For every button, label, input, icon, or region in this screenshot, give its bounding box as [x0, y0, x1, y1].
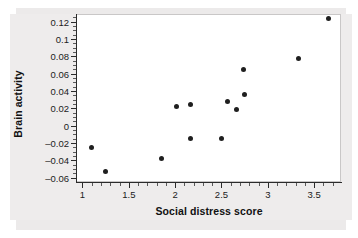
y-tick-mark	[71, 108, 76, 109]
x-minor-tick-mark	[184, 183, 185, 186]
y-tick-mark	[71, 178, 76, 179]
y-minor-tick-mark	[73, 78, 76, 79]
y-tick-label: 0.08	[51, 51, 70, 62]
y-minor-tick-mark	[73, 100, 76, 101]
x-tick-mark	[314, 183, 315, 188]
x-minor-tick-mark	[305, 183, 306, 186]
y-tick-mark	[71, 39, 76, 40]
y-tick-mark	[71, 74, 76, 75]
y-minor-tick-mark	[73, 17, 76, 18]
y-tick-mark	[71, 143, 76, 144]
x-tick-label: 3	[265, 189, 270, 200]
x-tick-label: 2	[172, 189, 177, 200]
x-tick-mark	[82, 183, 83, 188]
y-minor-tick-mark	[73, 82, 76, 83]
x-tick-mark	[129, 183, 130, 188]
y-minor-tick-mark	[73, 134, 76, 135]
x-minor-tick-mark	[203, 183, 204, 186]
x-tick-mark	[268, 183, 269, 188]
y-minor-tick-mark	[73, 87, 76, 88]
y-minor-tick-mark	[73, 35, 76, 36]
x-minor-tick-mark	[166, 183, 167, 186]
x-tick-label: 3.5	[308, 189, 321, 200]
y-tick-mark	[71, 126, 76, 127]
y-tick-label: –0.06	[45, 172, 69, 183]
y-minor-tick-mark	[73, 152, 76, 153]
x-minor-tick-mark	[333, 183, 334, 186]
y-tick-label: 0.12	[51, 16, 70, 27]
y-minor-tick-mark	[73, 173, 76, 174]
y-tick-mark	[71, 22, 76, 23]
y-minor-tick-mark	[73, 65, 76, 66]
y-minor-tick-mark	[73, 48, 76, 49]
y-minor-tick-mark	[73, 165, 76, 166]
y-minor-tick-mark	[73, 139, 76, 140]
y-tick-label: 0.06	[51, 68, 70, 79]
y-minor-tick-mark	[73, 52, 76, 53]
y-minor-tick-mark	[73, 69, 76, 70]
x-tick-label: 1	[80, 189, 85, 200]
x-minor-tick-mark	[120, 183, 121, 186]
x-axis-title: Social distress score	[76, 205, 342, 217]
x-tick-label: 2.5	[215, 189, 228, 200]
x-minor-tick-mark	[286, 183, 287, 186]
x-minor-tick-mark	[249, 183, 250, 186]
y-minor-tick-mark	[73, 121, 76, 122]
x-minor-tick-mark	[323, 183, 324, 186]
y-minor-tick-mark	[73, 117, 76, 118]
x-minor-tick-mark	[194, 183, 195, 186]
y-minor-tick-mark	[73, 26, 76, 27]
y-tick-mark	[71, 160, 76, 161]
y-minor-tick-mark	[73, 169, 76, 170]
scatter-plot-figure: 0.120.10.080.060.040.020–0.02–0.04–0.06 …	[0, 0, 358, 238]
x-axis-line	[76, 182, 342, 183]
plot-area	[76, 14, 341, 182]
y-tick-label: –0.04	[45, 155, 69, 166]
x-tick-mark	[175, 183, 176, 188]
x-minor-tick-mark	[138, 183, 139, 186]
x-minor-tick-mark	[259, 183, 260, 186]
x-minor-tick-mark	[101, 183, 102, 186]
y-axis-tick-labels: 0.120.10.080.060.040.020–0.02–0.04–0.06	[0, 0, 69, 238]
y-tick-label: 0.02	[51, 103, 70, 114]
x-minor-tick-mark	[240, 183, 241, 186]
y-minor-tick-mark	[73, 113, 76, 114]
y-minor-tick-mark	[73, 104, 76, 105]
y-tick-mark	[71, 56, 76, 57]
y-tick-label: –0.02	[45, 138, 69, 149]
y-tick-mark	[71, 91, 76, 92]
y-axis-line	[76, 14, 77, 183]
y-tick-label: 0.1	[56, 34, 69, 45]
y-minor-tick-mark	[73, 61, 76, 62]
x-minor-tick-mark	[277, 183, 278, 186]
x-minor-tick-mark	[110, 183, 111, 186]
x-minor-tick-mark	[147, 183, 148, 186]
y-minor-tick-mark	[73, 30, 76, 31]
x-tick-label: 1.5	[122, 189, 135, 200]
y-minor-tick-mark	[73, 95, 76, 96]
y-minor-tick-mark	[73, 147, 76, 148]
x-minor-tick-mark	[157, 183, 158, 186]
x-tick-mark	[221, 183, 222, 188]
x-minor-tick-mark	[231, 183, 232, 186]
x-minor-tick-mark	[296, 183, 297, 186]
y-minor-tick-mark	[73, 130, 76, 131]
x-minor-tick-mark	[92, 183, 93, 186]
y-minor-tick-mark	[73, 156, 76, 157]
y-minor-tick-mark	[73, 43, 76, 44]
y-axis-title: Brain activity	[12, 44, 24, 164]
x-minor-tick-mark	[212, 183, 213, 186]
y-tick-label: 0.04	[51, 86, 70, 97]
y-tick-label: 0	[64, 120, 69, 131]
